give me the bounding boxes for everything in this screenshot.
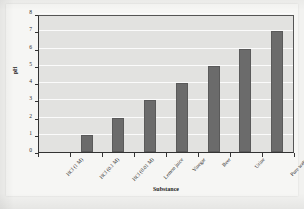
- bar-slot: [134, 16, 166, 152]
- y-axis-tick-label: 8: [29, 10, 32, 16]
- x-axis-category-label: Pure water: [289, 157, 304, 177]
- y-axis-tick-label: 0: [29, 148, 32, 154]
- x-axis-category-label: Beer: [221, 157, 232, 168]
- bar-slot: [71, 16, 103, 152]
- x-axis-category-label: HCl (0.1 M): [99, 157, 121, 180]
- x-axis-category-label: HCl (1 M): [65, 157, 84, 177]
- x-axis-tick-mark: [294, 153, 295, 157]
- bar-slot: [39, 16, 71, 152]
- y-axis-tick-label: 5: [29, 62, 32, 68]
- x-axis-category-label: Lemon juice: [163, 157, 185, 180]
- x-axis-title: Substance: [38, 186, 294, 192]
- bar: [271, 31, 283, 152]
- plot-area: [38, 15, 294, 153]
- y-axis-tick-label: 4: [29, 79, 32, 85]
- bar: [81, 135, 93, 152]
- y-axis-tick-label: 1: [29, 131, 32, 137]
- scanned-page: pH 012345678 HCl (1 M)HCl (0.1 M)HCl (0.…: [0, 0, 304, 209]
- x-axis-category-label: Vinegar: [191, 157, 206, 173]
- bar: [239, 49, 251, 153]
- y-axis-tick-label: 2: [29, 114, 32, 120]
- bar-slot: [103, 16, 135, 152]
- gridline: [39, 13, 293, 14]
- bar-slot: [198, 16, 230, 152]
- bar: [176, 83, 188, 152]
- x-axis-category-label: HCl (0.01 M): [131, 157, 154, 182]
- bar: [208, 66, 220, 152]
- chart-figure: pH 012345678 HCl (1 M)HCl (0.1 M)HCl (0.…: [6, 4, 298, 196]
- bar: [112, 118, 124, 153]
- y-axis-tick-label: 7: [29, 27, 32, 33]
- bar-slot: [261, 16, 293, 152]
- bar: [144, 100, 156, 152]
- y-axis-tick-label: 3: [29, 96, 32, 102]
- y-axis-tick-label: 6: [29, 45, 32, 51]
- y-axis: 012345678: [6, 4, 38, 142]
- bar-series: [39, 16, 293, 152]
- x-axis-category-label: Urine: [254, 157, 266, 170]
- bar-slot: [166, 16, 198, 152]
- bar-slot: [230, 16, 262, 152]
